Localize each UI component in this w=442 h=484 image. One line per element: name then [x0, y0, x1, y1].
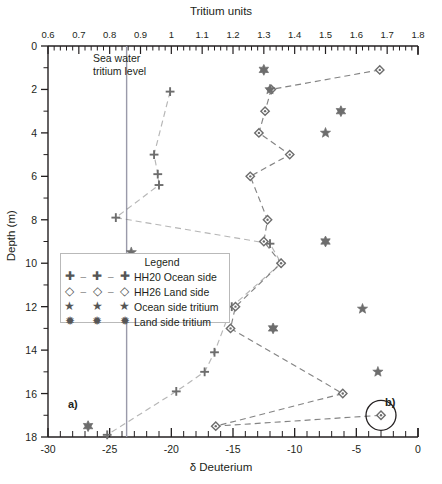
top-tick-label: 0.7 — [72, 29, 85, 40]
legend-entry: ★ ★ ★Ocean side tritium — [61, 299, 229, 314]
data-point-plus — [155, 181, 164, 190]
left-tick-label: 4 — [31, 127, 37, 139]
plus-icon: ✚ — [64, 271, 75, 282]
left-tick-label: 8 — [31, 214, 37, 226]
data-point-plus — [111, 213, 120, 222]
diamond-icon: ◇ — [64, 286, 75, 297]
left-tick-label: 14 — [25, 344, 37, 356]
star-icon: ★ — [119, 301, 130, 312]
left-tick-label: 12 — [25, 301, 37, 313]
series-line-diamond — [216, 70, 381, 426]
bottom-tick-label: 0 — [415, 443, 421, 455]
legend-entry-label: Land side tritium — [130, 316, 211, 328]
star-bold-icon: ✹ — [119, 316, 130, 327]
sea-water-label-line2: tritium level — [93, 65, 146, 77]
data-point-diamond — [263, 216, 271, 224]
top-tick-label: 1.3 — [257, 29, 270, 40]
star-bold-icon: ✹ — [92, 316, 103, 327]
data-point-diamond — [255, 129, 263, 137]
legend-dash — [109, 316, 112, 327]
left-tick-label: 10 — [25, 257, 37, 269]
legend-dash: – — [108, 271, 114, 282]
left-tick-label: 16 — [25, 388, 37, 400]
data-point-plus — [153, 170, 162, 179]
data-point-plus — [200, 367, 209, 376]
data-point-diamond — [246, 172, 254, 180]
top-tick-label: 0.9 — [134, 29, 147, 40]
top-tick-label: 0.8 — [103, 29, 116, 40]
data-point-plus — [150, 150, 159, 159]
data-point-diamond — [286, 150, 294, 158]
diamond-icon: ◇ — [119, 286, 130, 297]
star-icon: ★ — [64, 301, 75, 312]
top-tick-label: 1.5 — [319, 29, 332, 40]
legend-entry-label: HH26 Land side — [130, 286, 209, 298]
top-tick-label: 1 — [169, 29, 174, 40]
legend-title: Legend — [61, 256, 229, 268]
legend-dash — [82, 316, 85, 327]
left-tick-label: 6 — [31, 170, 37, 182]
legend-entry: ✹ ✹ ✹Land side tritium — [61, 314, 229, 329]
left-tick-label: 18 — [25, 431, 37, 443]
diamond-icon: ◇ — [92, 286, 103, 297]
data-point-plus — [172, 387, 181, 396]
sea-water-label-line1: Sea water — [93, 52, 140, 64]
data-point-star — [320, 127, 330, 137]
legend-entry-label: Ocean side tritium — [130, 301, 219, 313]
data-point-diamond — [339, 389, 347, 397]
top-tick-label: 1.4 — [288, 29, 301, 40]
plus-icon: ✚ — [119, 271, 130, 282]
data-point-star-bold — [83, 421, 92, 432]
legend: Legend✚–✚–✚HH20 Ocean side◇–◇–◇HH26 Land… — [60, 253, 230, 323]
legend-entry: ◇–◇–◇HH26 Land side — [61, 284, 229, 299]
data-point-plus — [210, 348, 219, 357]
data-point-star-bold — [321, 236, 330, 247]
top-tick-label: 1.6 — [350, 29, 363, 40]
legend-dash: – — [108, 286, 114, 297]
top-tick-label: 1.2 — [226, 29, 239, 40]
top-tick-label: 1.7 — [381, 29, 394, 40]
panel-label-a: a) — [68, 398, 78, 411]
data-point-star-bold — [259, 64, 268, 75]
bottom-tick-label: -5 — [352, 443, 361, 455]
star-icon: ★ — [92, 301, 103, 312]
top-tick-label: 1.8 — [411, 29, 424, 40]
legend-dash: – — [80, 271, 86, 282]
star-bold-icon: ✹ — [64, 316, 75, 327]
plus-icon: ✚ — [92, 271, 103, 282]
bottom-tick-label: -30 — [40, 443, 55, 455]
data-point-diamond — [376, 66, 384, 74]
data-point-plus — [166, 87, 175, 96]
legend-entry-label: HH20 Ocean side — [130, 271, 217, 283]
bottom-tick-label: -25 — [102, 443, 117, 455]
bottom-tick-label: -15 — [225, 443, 240, 455]
data-point-star — [373, 366, 383, 376]
data-point-star-bold — [268, 323, 277, 334]
panel-label-b: b) — [385, 396, 395, 409]
left-tick-label: 2 — [31, 83, 37, 95]
plot-canvas: 0.60.70.80.911.11.21.31.41.51.61.71.8-30… — [0, 0, 442, 484]
bottom-tick-label: -20 — [164, 443, 179, 455]
data-point-diamond — [212, 422, 220, 430]
legend-entry: ✚–✚–✚HH20 Ocean side — [61, 269, 229, 284]
legend-dash — [109, 301, 112, 312]
top-tick-label: 1.1 — [196, 29, 209, 40]
top-tick-label: 0.6 — [41, 29, 54, 40]
data-point-diamond — [377, 411, 385, 419]
data-point-star — [357, 303, 367, 313]
left-tick-label: 0 — [31, 40, 37, 52]
legend-dash: – — [80, 286, 86, 297]
tritium-deuterium-depth-profile-figure: Tritium units δ Deuterium Depth (m) 0.60… — [0, 0, 442, 484]
bottom-tick-label: -10 — [287, 443, 302, 455]
legend-dash — [82, 301, 85, 312]
data-point-star-bold — [336, 106, 345, 117]
data-point-diamond — [261, 107, 269, 115]
